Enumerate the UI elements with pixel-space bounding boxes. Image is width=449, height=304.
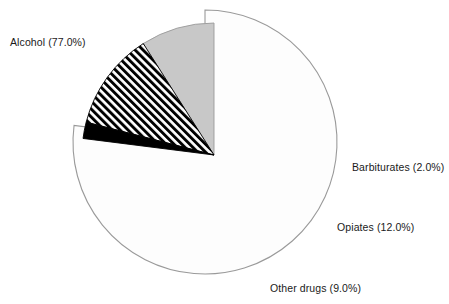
pie-label-other-drugs: Other drugs (9.0%) [270, 282, 361, 294]
pie-exploded-group [83, 23, 214, 155]
pie-label-opiates: Opiates (12.0%) [337, 221, 414, 233]
pie-label-barbiturates: Barbiturates (2.0%) [352, 161, 444, 173]
pie-chart-figure: Alcohol (77.0%) Barbiturates (2.0%) Opia… [0, 0, 449, 304]
pie-label-alcohol: Alcohol (77.0%) [10, 36, 86, 48]
